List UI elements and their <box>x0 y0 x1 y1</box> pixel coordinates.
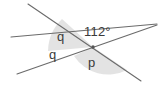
angle-diagram: 112° q q p <box>0 0 164 87</box>
line-steep-descending <box>28 4 141 81</box>
angle-label-q-upper: q <box>57 30 64 43</box>
lines-group <box>11 4 157 81</box>
angle-measure-label: 112° <box>84 25 111 38</box>
diagram-canvas <box>0 0 164 87</box>
angle-label-p: p <box>88 56 95 69</box>
vertex-point <box>91 45 94 48</box>
angle-label-q-lower: q <box>49 48 56 61</box>
